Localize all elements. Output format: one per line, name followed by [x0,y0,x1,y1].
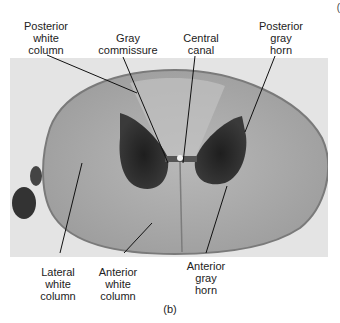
label-central-canal: Central canal [175,32,227,56]
label-posterior-white-column: Posterior white column [14,20,78,56]
figure-caption: (b) [0,303,340,315]
label-posterior-gray-horn: Posterior gray horn [250,20,312,56]
label-lateral-white-column: Lateral white column [30,266,86,302]
label-anterior-white-column: Anterior white column [90,266,146,302]
label-gray-commissure: Gray commissure [90,32,166,56]
label-anterior-gray-horn: Anterior gray horn [178,260,234,296]
